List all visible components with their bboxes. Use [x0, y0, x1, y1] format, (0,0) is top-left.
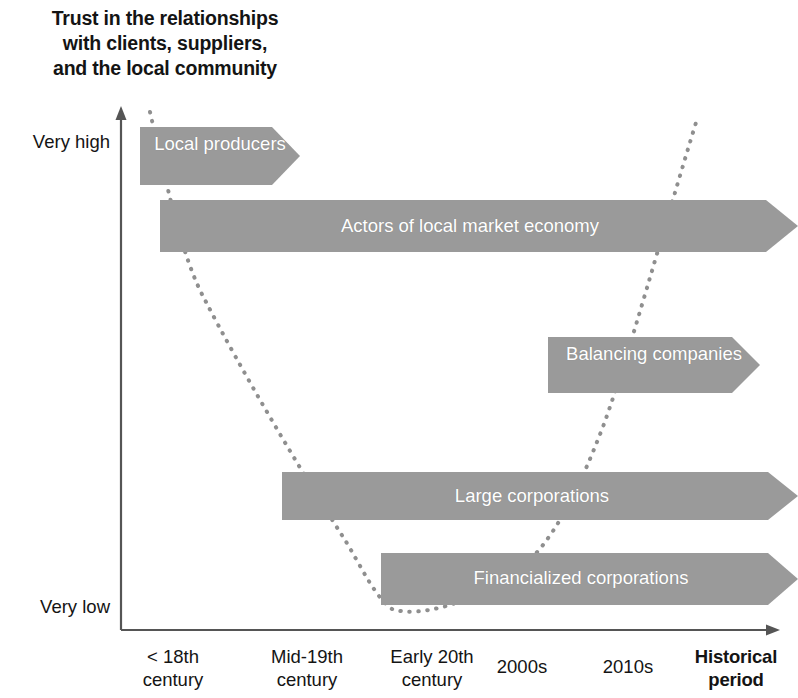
band-local-producers[interactable]: [140, 127, 300, 185]
bands-layer: [0, 0, 798, 698]
x-axis-label-2010s: 2010s: [578, 655, 678, 678]
band-large-corporations[interactable]: [282, 472, 798, 520]
x-axis-label-18th-century: < 18th century: [108, 645, 238, 691]
band-balancing-companies[interactable]: [548, 337, 760, 393]
trust-diagram: Trust in the relationships with clients,…: [0, 0, 798, 698]
y-axis-label-very-high: Very high: [6, 131, 110, 153]
band-financialized-corporations[interactable]: [381, 553, 798, 605]
x-axis-title: Historical period: [676, 645, 796, 691]
y-axis-label-very-low: Very low: [6, 596, 110, 618]
x-axis-label-mid-19th-century: Mid-19th century: [237, 645, 377, 691]
x-axis-label-2000s: 2000s: [472, 655, 572, 678]
band-actors-of-local-market-economy[interactable]: [160, 200, 798, 252]
